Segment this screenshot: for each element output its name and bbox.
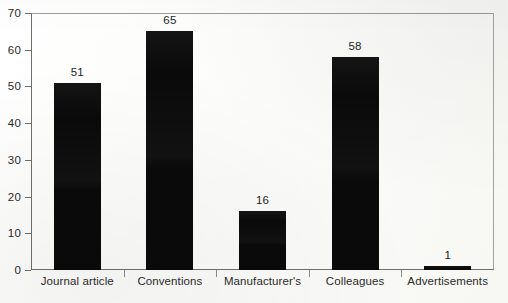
y-axis-line (31, 13, 32, 270)
bar-value-label: 65 (163, 14, 176, 26)
y-tick-mark (25, 160, 31, 161)
y-tick-label: 30 (8, 154, 21, 166)
bar-value-label: 16 (256, 194, 269, 206)
x-axis-label-2: Conventions (137, 275, 202, 287)
y-tick-mark (25, 233, 31, 234)
y-tick-mark (25, 13, 31, 14)
x-axis-separator (401, 270, 402, 277)
bar-value-label: 51 (71, 66, 84, 78)
x-axis-separator (216, 270, 217, 277)
bar-1: 51 (54, 83, 101, 270)
y-tick-mark (25, 197, 31, 198)
plot-frame-right (493, 13, 494, 270)
x-axis-separator (124, 270, 125, 277)
y-tick-label: 40 (8, 117, 21, 129)
bar-value-label: 1 (444, 249, 451, 261)
y-tick-label: 50 (8, 80, 21, 92)
bar-3: 16 (239, 211, 286, 270)
x-axis-label-4: Colleagues (326, 275, 385, 287)
x-axis-label-1: Journal article (41, 275, 114, 287)
x-axis-separator (309, 270, 310, 277)
bar-chart-figure: 010203040506070 516516581 Journal articl… (0, 0, 508, 303)
plot-frame-top (31, 13, 494, 14)
y-tick-mark (25, 123, 31, 124)
x-axis-label-3: Manufacturer's (224, 275, 301, 287)
bar-4: 58 (332, 57, 379, 270)
bar-5: 1 (424, 266, 471, 270)
plot-area: 010203040506070 516516581 (31, 13, 494, 270)
y-tick-mark (25, 86, 31, 87)
bar-2: 65 (146, 31, 193, 270)
y-tick-label: 70 (8, 7, 21, 19)
y-tick-mark (25, 50, 31, 51)
x-axis-label-5: Advertisements (407, 275, 488, 287)
y-tick-label: 10 (8, 227, 21, 239)
y-tick-label: 60 (8, 44, 21, 56)
y-tick-mark (25, 270, 31, 271)
bar-value-label: 58 (348, 40, 361, 52)
y-tick-label: 0 (14, 264, 21, 276)
y-tick-label: 20 (8, 191, 21, 203)
